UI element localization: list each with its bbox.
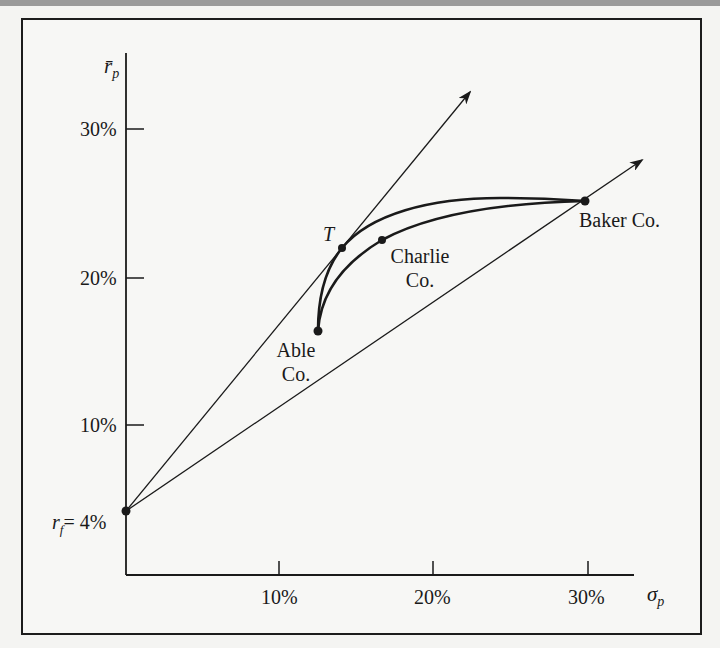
rf-point <box>122 507 131 516</box>
y-axis-label: r̄p <box>104 56 119 81</box>
able-label: Able Co. <box>264 338 328 386</box>
y-tick-label-10: 10% <box>80 415 117 435</box>
charlie-label: Charlie Co. <box>380 244 460 292</box>
cal-line-through-T <box>126 92 470 511</box>
x-tick-label-30: 30% <box>568 587 605 607</box>
charlie-point <box>378 236 386 244</box>
y-axis-label-sub: p <box>112 66 119 81</box>
able-point <box>314 327 323 336</box>
baker-label: Baker Co. <box>579 210 660 230</box>
T-point <box>338 244 346 252</box>
cal-line-through-baker <box>126 160 642 511</box>
T-label: T <box>323 224 334 244</box>
y-axis-label-main: r̄ <box>104 54 112 78</box>
x-axis-label-sub: p <box>657 594 664 609</box>
able-label-line2: Co. <box>264 362 328 386</box>
y-tick-label-30: 30% <box>80 119 117 139</box>
able-label-line1: Able <box>264 338 328 362</box>
charlie-label-line1: Charlie <box>380 244 460 268</box>
rf-label-value: = 4% <box>63 511 106 533</box>
x-tick-label-20: 20% <box>414 587 451 607</box>
x-axis-label-main: σ <box>647 582 657 606</box>
risk-return-plot <box>0 0 720 648</box>
rf-label: rf= 4% <box>52 512 106 536</box>
rf-label-main: r <box>52 511 60 533</box>
y-tick-label-20: 20% <box>80 268 117 288</box>
baker-point <box>581 197 590 206</box>
charlie-label-line2: Co. <box>380 268 460 292</box>
x-axis-label: σp <box>647 584 664 609</box>
x-tick-label-10: 10% <box>261 587 298 607</box>
